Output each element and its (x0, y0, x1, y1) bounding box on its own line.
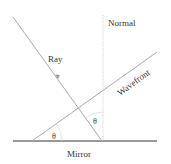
reflection-diagram: Ray Normal Wavefront Mirror θ θ (0, 0, 171, 164)
theta-normal-label: θ (93, 117, 97, 126)
mirror-label: Mirror (67, 149, 91, 159)
angle-arc-wavefront (56, 124, 62, 141)
theta-wavefront-label: θ (52, 132, 56, 141)
ray-label: Ray (48, 54, 63, 64)
normal-label: Normal (108, 18, 136, 28)
diagram-svg: Ray Normal Wavefront Mirror θ θ (0, 0, 171, 164)
wavefront-line (32, 52, 157, 141)
wavefront-label: Wavefront (115, 67, 152, 98)
